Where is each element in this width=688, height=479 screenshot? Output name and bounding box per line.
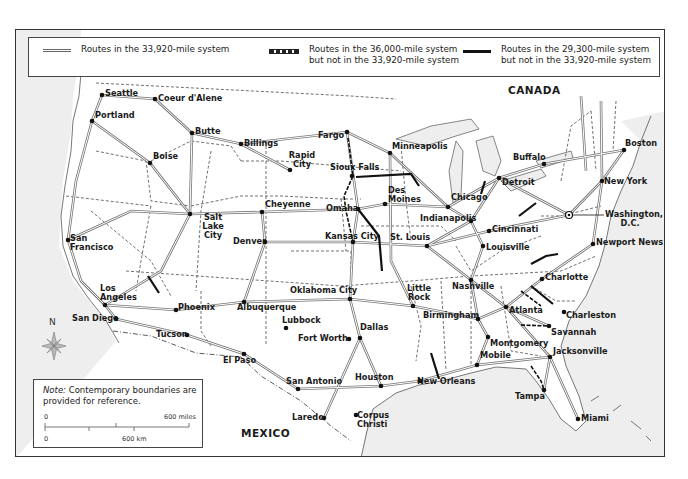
- city-label-mobile: Mobile: [480, 351, 511, 360]
- dashed-line-swatch-icon: [269, 49, 299, 54]
- city-label-lubbock: Lubbock: [282, 316, 321, 325]
- city-label-birmingham: Birmingham: [423, 311, 479, 320]
- city-label-laredo: Laredo: [292, 413, 324, 422]
- legend-item-36000: Routes in the 36,000-mile system but not…: [269, 44, 459, 66]
- city-label-montgomery: Montgomery: [490, 339, 548, 348]
- routes-33920: [68, 95, 624, 419]
- scale-miles-label: 600 miles: [164, 413, 196, 421]
- city-label-tucson: Tucson: [156, 330, 188, 339]
- city-label-corpus-christi: Corpus Christi: [357, 411, 392, 429]
- city-label-chicago: Chicago: [451, 193, 488, 202]
- city-label-san-francisco: San Francisco: [70, 234, 110, 252]
- note-label: Note:: [43, 385, 66, 395]
- city-label-albuquerque: Albuquerque: [237, 303, 296, 312]
- scale-miles-zero: 0: [44, 413, 48, 421]
- city-label-st-louis: St. Louis: [390, 233, 430, 242]
- city-label-tampa: Tampa: [515, 392, 545, 401]
- city-label-seattle: Seattle: [105, 89, 138, 98]
- solid-line-swatch-icon: [463, 50, 491, 53]
- city-label-new-orleans: New Orleans: [417, 377, 475, 386]
- compass-north-label: N: [49, 317, 56, 327]
- city-label-kansas-city: Kansas City: [325, 232, 379, 241]
- city-label-fort-worth: Fort Worth: [298, 334, 348, 343]
- city-label-denver: Denver: [233, 237, 266, 246]
- legend-label: Routes in the 33,920-mile system: [81, 44, 229, 55]
- legend-label: Routes in the 36,000-mile system: [309, 44, 459, 55]
- city-label-san-antonio: San Antonio: [286, 377, 342, 386]
- city-label-fargo: Fargo: [318, 131, 344, 140]
- legend-label-line2: but not in the 33,920-mile system: [309, 55, 459, 66]
- city-label-omaha: Omaha: [326, 204, 358, 213]
- city-label-butte: Butte: [195, 127, 220, 136]
- scale-bar: [44, 423, 194, 433]
- city-label-atlanta: Atlanta: [509, 306, 543, 315]
- city-label-savannah: Savannah: [551, 328, 596, 337]
- city-label-billings: Billings: [244, 139, 278, 148]
- city-label-boston: Boston: [625, 139, 657, 148]
- city-label-charleston: Charleston: [566, 311, 616, 320]
- city-label-oklahoma-city: Oklahoma City: [290, 286, 357, 295]
- city-label-miami: Miami: [581, 414, 609, 423]
- note-box: Note: Contemporary boundaries are provid…: [33, 379, 203, 448]
- legend-label: Routes in the 29,300-mile system: [501, 44, 651, 55]
- country-label-canada: CANADA: [508, 84, 561, 96]
- city-label-indianapolis: Indianapolis: [420, 214, 476, 223]
- city-label-rapid-city: Rapid City: [287, 151, 317, 169]
- city-label-cincinnati: Cincinnati: [492, 225, 538, 234]
- scale-km-label: 600 km: [122, 435, 147, 443]
- city-label-coeur-dalene: Coeur d'Alene: [158, 94, 222, 103]
- city-label-salt-lake-city: Salt Lake City: [193, 213, 233, 240]
- city-label-charlotte: Charlotte: [545, 273, 588, 282]
- city-label-detroit: Detroit: [502, 178, 535, 187]
- city-label-el-paso: El Paso: [223, 356, 256, 365]
- city-label-phoenix: Phoenix: [178, 303, 215, 312]
- city-label-sioux-falls: Sioux Falls: [330, 163, 379, 172]
- city-label-portland: Portland: [95, 111, 135, 120]
- city-label-san-diego: San Diego: [72, 314, 119, 323]
- city-label-louisville: Louisville: [486, 243, 530, 252]
- map-legend: Routes in the 33,920-mile system Routes …: [28, 37, 660, 77]
- great-lakes: [396, 119, 573, 203]
- city-label-cheyenne: Cheyenne: [265, 200, 311, 209]
- city-label-minneapolis: Minneapolis: [392, 142, 448, 151]
- legend-item-33920: Routes in the 33,920-mile system: [43, 44, 229, 55]
- city-label-los-angeles: Los Angeles: [100, 284, 140, 302]
- city-label-nashville: Nashville: [452, 282, 494, 291]
- city-label-boise: Boise: [153, 152, 178, 161]
- legend-label-line2: but not in the 33,920-mile system: [501, 55, 651, 66]
- country-label-mexico: MEXICO: [241, 427, 290, 439]
- scale-km-zero: 0: [44, 435, 48, 443]
- city-label-washington-dc: Washington, D.C.: [605, 210, 655, 228]
- legend-item-29300: Routes in the 29,300-mile system but not…: [463, 44, 651, 66]
- double-line-swatch-icon: [43, 49, 71, 52]
- city-label-dallas: Dallas: [360, 323, 388, 332]
- city-label-des-moines: Des Moines: [388, 186, 418, 204]
- city-label-newport-news: Newport News: [596, 238, 663, 247]
- note-text: Note: Contemporary boundaries are provid…: [43, 385, 202, 407]
- city-label-little-rock: Little Rock: [404, 284, 434, 302]
- city-label-houston: Houston: [355, 373, 394, 382]
- city-label-new-york: New York: [604, 177, 647, 186]
- city-label-jacksonville: Jacksonville: [553, 347, 608, 356]
- note-body: Contemporary boundaries are provided for…: [43, 385, 197, 406]
- city-label-buffalo: Buffalo: [513, 153, 546, 162]
